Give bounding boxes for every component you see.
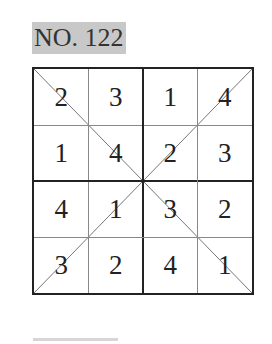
sudoku-grid: 2314142341323241	[32, 67, 254, 295]
footer-divider	[33, 338, 118, 341]
grid-cell: 3	[198, 125, 253, 181]
puzzle-number-label: NO. 122	[32, 22, 126, 54]
grid-cell: 2	[143, 125, 198, 181]
grid-cell: 2	[89, 237, 144, 293]
grid-cell: 1	[198, 237, 253, 293]
grid-cell: 3	[89, 69, 144, 125]
grid-cell: 1	[143, 69, 198, 125]
grid-cell: 2	[34, 69, 89, 125]
grid-cell: 4	[34, 181, 89, 237]
grid-cell: 4	[198, 69, 253, 125]
grid-cell: 2	[198, 181, 253, 237]
grid-cell: 4	[143, 237, 198, 293]
grid-cell: 4	[89, 125, 144, 181]
grid-cell: 3	[143, 181, 198, 237]
grid-cell: 1	[34, 125, 89, 181]
grid-cell: 3	[34, 237, 89, 293]
grid-cell: 1	[89, 181, 144, 237]
